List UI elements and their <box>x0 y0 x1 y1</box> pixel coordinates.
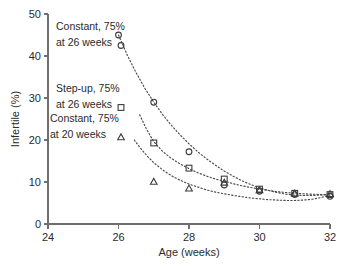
y-tick-label: 10 <box>29 176 41 188</box>
x-tick-label: 28 <box>183 231 195 243</box>
legend-entry-line2: at 20 weeks <box>50 128 106 140</box>
legend-entry-line1: Constant, 75% <box>56 20 125 32</box>
x-axis-title: Age (weeks) <box>158 246 219 258</box>
y-tick-label: 40 <box>29 50 41 62</box>
y-axis-title: Infertile (%) <box>9 91 21 147</box>
x-tick-label: 26 <box>112 231 124 243</box>
y-tick-label: 20 <box>29 134 41 146</box>
chart-canvas: 01020304050 2426283032 Infertile (%) Age… <box>0 0 350 269</box>
x-tick-label: 30 <box>253 231 265 243</box>
y-tick-label: 0 <box>35 218 41 230</box>
legend-entry-line1: Step-up, 75% <box>56 82 120 94</box>
infertility-vs-age-chart: 01020304050 2426283032 Infertile (%) Age… <box>0 0 350 269</box>
x-tick-label: 32 <box>324 231 336 243</box>
y-tick-label: 50 <box>29 8 41 20</box>
x-tick-label: 24 <box>42 231 54 243</box>
legend-entry-line2: at 26 weeks <box>56 98 112 110</box>
legend-entry-line2: at 26 weeks <box>56 36 112 48</box>
legend-entry-line1: Constant, 75% <box>50 112 119 124</box>
y-tick-label: 30 <box>29 92 41 104</box>
